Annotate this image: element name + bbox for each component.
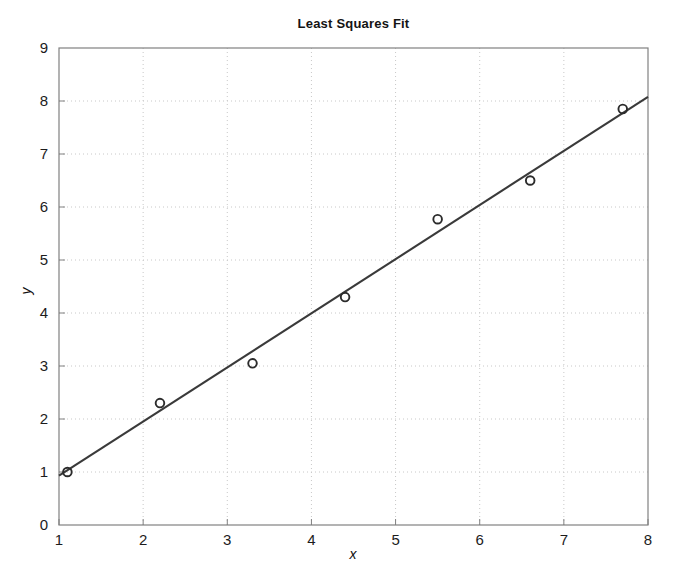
x-tick-label: 3 xyxy=(223,531,231,548)
data-point-marker xyxy=(341,293,350,302)
x-tick-label: 6 xyxy=(476,531,484,548)
y-tick-label: 7 xyxy=(40,145,48,162)
y-tick-label: 2 xyxy=(40,410,48,427)
y-tick-label: 8 xyxy=(40,92,48,109)
x-tick-label: 2 xyxy=(139,531,147,548)
data-point-marker xyxy=(526,176,535,185)
x-tick-label: 1 xyxy=(55,531,63,548)
y-axis-label: y xyxy=(18,287,34,296)
x-tick-label: 7 xyxy=(560,531,568,548)
data-point-marker xyxy=(248,359,257,368)
y-tick-label: 4 xyxy=(40,304,48,321)
x-tick-label: 4 xyxy=(307,531,315,548)
x-tick-label: 5 xyxy=(391,531,399,548)
x-tick-label: 8 xyxy=(644,531,652,548)
y-tick-label: 0 xyxy=(40,516,48,533)
y-tick-label: 5 xyxy=(40,251,48,268)
figure-canvas: Least Squares Fit 123456780123456789 x y xyxy=(0,0,685,584)
data-point-marker xyxy=(156,399,165,408)
y-tick-label: 6 xyxy=(40,198,48,215)
y-tick-label: 3 xyxy=(40,357,48,374)
chart-plot: 123456780123456789 x y xyxy=(0,0,685,584)
y-tick-label: 1 xyxy=(40,463,48,480)
y-tick-label: 9 xyxy=(40,39,48,56)
data-point-marker xyxy=(433,215,442,224)
x-axis-label: x xyxy=(349,546,358,562)
